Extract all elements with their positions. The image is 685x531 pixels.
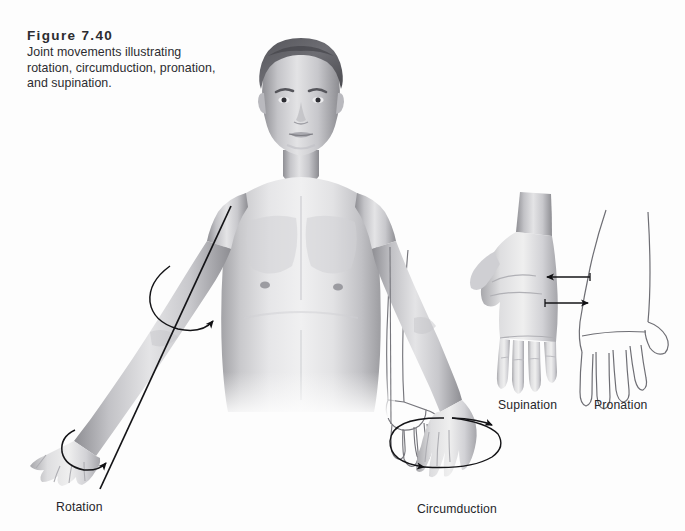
supinated-palm [481, 232, 558, 342]
right-nipple [333, 283, 343, 290]
supination-pronation-panel [470, 192, 668, 409]
supinated-finger-1 [497, 338, 510, 389]
human-figure [30, 38, 477, 486]
supinated-finger-3 [528, 341, 541, 392]
left-nipple [260, 281, 270, 288]
anatomical-illustration [0, 0, 685, 531]
torso-fade [210, 372, 395, 418]
left-pectoral-shading [246, 216, 297, 274]
circumduction-arm [372, 241, 477, 477]
pronated-hand [579, 210, 668, 409]
supinated-finger-4 [544, 342, 557, 383]
right-pectoral-shading [306, 216, 357, 274]
supinated-hand [470, 192, 558, 394]
right-pupil [316, 98, 321, 103]
figure-page: Figure 7.40 Joint movements illustrating… [0, 0, 685, 531]
supinated-forearm [516, 192, 552, 236]
label-supination: Supination [498, 398, 557, 412]
left-arm [74, 241, 231, 456]
supinated-finger-2 [512, 340, 524, 394]
label-rotation: Rotation [56, 500, 103, 514]
label-pronation: Pronation [594, 398, 648, 412]
rotation-axis-line [100, 206, 231, 489]
rotation-arm [30, 241, 231, 486]
label-circumduction: Circumduction [417, 502, 497, 516]
left-pupil [282, 98, 287, 103]
head [258, 38, 344, 156]
